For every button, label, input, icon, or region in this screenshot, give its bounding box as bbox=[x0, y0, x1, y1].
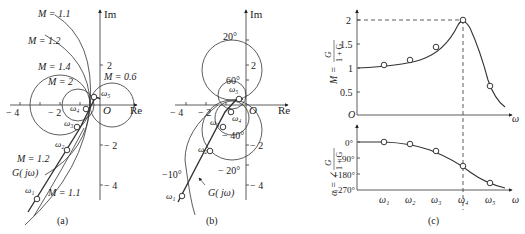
svg-text:G: G bbox=[323, 51, 333, 58]
svg-text:2: 2 bbox=[107, 60, 112, 71]
svg-text:ω₄: ω₄ bbox=[70, 103, 79, 113]
svg-text:2: 2 bbox=[251, 60, 256, 71]
svg-text:0°: 0° bbox=[345, 138, 354, 148]
svg-text:M =: M = bbox=[328, 66, 339, 85]
point-w5 bbox=[236, 96, 242, 102]
origin-label: O bbox=[103, 104, 111, 116]
svg-text:−180°: −180° bbox=[333, 170, 356, 180]
m-curve bbox=[358, 21, 505, 107]
svg-text:M = 1.2: M = 1.2 bbox=[27, 35, 61, 46]
point-w2 bbox=[64, 147, 70, 153]
svg-text:G( jω): G( jω) bbox=[208, 187, 235, 199]
svg-text:−270°: −270° bbox=[333, 185, 356, 195]
svg-text:− 4: − 4 bbox=[6, 107, 19, 118]
svg-text:M = 0.6: M = 0.6 bbox=[103, 71, 137, 82]
svg-text:ω: ω bbox=[512, 113, 519, 124]
panel-a-labels: Im Re O − 4 − 2 2 − 2 − 4 M = 1.1 M = 1.… bbox=[6, 8, 142, 227]
alpha-curve bbox=[358, 142, 505, 188]
svg-text:ω₃: ω₃ bbox=[431, 194, 442, 205]
svg-text:M = 1.4: M = 1.4 bbox=[37, 61, 71, 72]
svg-text:− 20°: − 20° bbox=[218, 165, 240, 176]
re-label: Re bbox=[130, 104, 142, 116]
svg-text:−90°: −90° bbox=[337, 154, 355, 164]
panel-c-closed-loop-frequency-response bbox=[357, 10, 512, 210]
svg-text:ω: ω bbox=[512, 194, 519, 205]
caption-a: (a) bbox=[57, 215, 68, 227]
svg-text:Im: Im bbox=[250, 8, 263, 20]
svg-text:G( jω): G( jω) bbox=[12, 167, 39, 179]
svg-text:ω₁: ω₁ bbox=[25, 185, 34, 195]
svg-text:0.5: 0.5 bbox=[340, 87, 353, 98]
svg-text:ω₁: ω₁ bbox=[379, 194, 390, 205]
point-w4 bbox=[83, 106, 89, 112]
svg-text:ω₄: ω₄ bbox=[232, 113, 241, 123]
svg-text:1 + G: 1 + G bbox=[335, 43, 344, 62]
svg-text:ω₂: ω₂ bbox=[55, 139, 64, 149]
svg-text:ω₅: ω₅ bbox=[229, 84, 238, 94]
svg-text:ω₄: ω₄ bbox=[458, 194, 469, 205]
svg-text:M = 2: M = 2 bbox=[47, 76, 73, 87]
svg-text:ω₁: ω₁ bbox=[166, 191, 175, 201]
svg-text:1: 1 bbox=[348, 63, 353, 74]
svg-text:− 40°: − 40° bbox=[222, 130, 244, 141]
svg-text:− 4: − 4 bbox=[104, 180, 117, 191]
panel-c-labels: 2 1.5 1 0.5 O ω M = G 1 + G α = ∠ G 1 + … bbox=[323, 15, 519, 227]
svg-text:M = 1.1: M = 1.1 bbox=[47, 187, 81, 198]
svg-text:ω₂: ω₂ bbox=[198, 144, 207, 154]
point-w1 bbox=[34, 196, 40, 202]
svg-text:ω₃: ω₃ bbox=[210, 117, 219, 127]
svg-text:Re: Re bbox=[278, 104, 290, 116]
svg-text:ω₂: ω₂ bbox=[405, 194, 416, 205]
point-w5 bbox=[91, 94, 97, 100]
svg-text:−10°: −10° bbox=[162, 169, 182, 180]
m-ylabel: M = G 1 + G bbox=[323, 40, 344, 85]
svg-text:G: G bbox=[323, 159, 333, 166]
svg-text:ω₃: ω₃ bbox=[64, 118, 73, 128]
point-w3 bbox=[220, 124, 226, 130]
figure-canvas: Im Re O − 4 − 2 2 − 2 − 4 M = 1.1 M = 1.… bbox=[0, 0, 525, 234]
svg-text:M = 1.1: M = 1.1 bbox=[37, 8, 71, 19]
im-label: Im bbox=[104, 8, 117, 20]
svg-text:− 2: − 2 bbox=[250, 140, 263, 151]
svg-text:− 2: − 2 bbox=[48, 107, 61, 118]
svg-text:2: 2 bbox=[346, 15, 351, 26]
svg-text:− 4: − 4 bbox=[170, 107, 183, 118]
point-w3 bbox=[74, 124, 80, 130]
point-w2 bbox=[207, 148, 213, 154]
svg-text:− 2: − 2 bbox=[104, 140, 117, 151]
svg-text:O: O bbox=[249, 104, 257, 116]
svg-text:− 4: − 4 bbox=[250, 180, 263, 191]
point-w1 bbox=[179, 193, 185, 199]
svg-text:ω₅: ω₅ bbox=[485, 194, 496, 205]
svg-text:ω₅: ω₅ bbox=[101, 88, 110, 98]
svg-text:O: O bbox=[348, 109, 355, 120]
svg-text:20°: 20° bbox=[223, 31, 237, 42]
caption-c: (c) bbox=[428, 215, 439, 227]
caption-b: (b) bbox=[206, 215, 218, 227]
svg-text:M = 1.2: M = 1.2 bbox=[16, 153, 50, 164]
